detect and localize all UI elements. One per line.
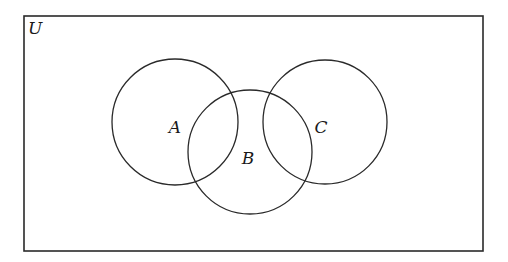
set-a-label: A [167,117,181,137]
universe-rectangle [24,16,483,251]
venn-diagram: U A B C [0,0,508,262]
set-c-label: C [314,117,327,137]
set-b-label: B [241,148,255,168]
universe-label: U [28,18,43,38]
